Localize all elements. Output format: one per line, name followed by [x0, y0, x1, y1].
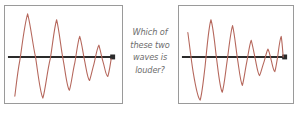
question-label: Which of these two waves is louder?: [124, 26, 176, 76]
left-wave-panel: [4, 5, 123, 104]
right-wave-plot: [179, 6, 293, 103]
damped-waveform-path: [188, 20, 283, 100]
left-wave-plot: [5, 6, 122, 103]
right-wave-panel: [178, 5, 294, 104]
waveform-comparison-figure: Which of these two waves is louder?: [0, 0, 300, 113]
